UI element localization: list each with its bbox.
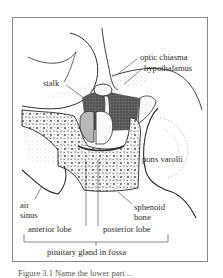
label-bone: bone: [134, 213, 151, 222]
label-air: air: [20, 201, 29, 210]
optic-chiasma-shape: [94, 84, 112, 96]
label-anterior-lobe: anterior lobe: [28, 225, 72, 234]
label-optic-chiasma: optic chiasma: [140, 53, 188, 62]
label-pituitary-gland: pituitary gland in fossa: [47, 248, 126, 257]
figure-caption: Figure 3.1 Name the lower part ...: [18, 268, 133, 278]
label-hypothalamus: hypothalamus: [144, 64, 192, 73]
label-posterior-lobe: posterior lobe: [103, 225, 151, 234]
posterior-lobe-shape: [96, 111, 113, 144]
air-sinus-outline: [22, 166, 66, 194]
label-stalk: stalk: [43, 79, 59, 88]
label-pons-varolii: pons varolii: [142, 155, 183, 164]
label-sphenoid: sphenoid: [134, 203, 165, 212]
label-sinus: sinus: [20, 211, 38, 220]
